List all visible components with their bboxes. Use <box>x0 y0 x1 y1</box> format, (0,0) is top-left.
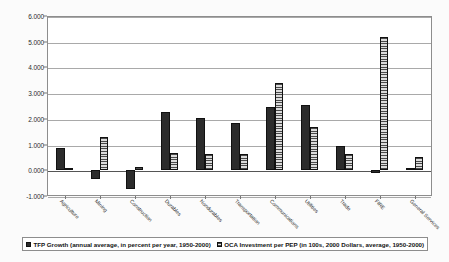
y-axis-tick-mark <box>43 118 47 119</box>
gridline <box>48 43 431 44</box>
x-axis-label-utilities: Utilities <box>303 198 319 214</box>
y-axis-tick-label: 0.000 <box>4 167 44 174</box>
x-axis-tick-mark <box>380 196 381 199</box>
zero-axis-line <box>48 171 431 172</box>
x-axis-tick-mark <box>275 196 276 199</box>
y-axis-tick-mark <box>43 93 47 94</box>
x-axis-label-general-services: General Services <box>408 198 440 230</box>
x-axis-label-mining: Mining <box>93 198 108 213</box>
x-axis-tick-mark <box>100 196 101 199</box>
x-axis-label-communications: Communications <box>268 198 300 230</box>
plot-area <box>47 16 432 196</box>
x-axis-tick-mark <box>135 196 136 199</box>
chart-legend: TFP Growth (annual average, in percent p… <box>22 237 428 251</box>
x-axis-label-transportation: Transportation <box>233 198 261 226</box>
y-axis-tick-mark <box>43 196 47 197</box>
x-axis-tick-mark <box>65 196 66 199</box>
legend-swatch-oca <box>217 242 222 247</box>
x-axis-tick-mark <box>310 196 311 199</box>
y-axis-tick-label: 5.000 <box>4 38 44 45</box>
legend-label: TFP Growth (annual average, in percent p… <box>33 241 210 248</box>
x-axis-tick-mark <box>415 196 416 199</box>
y-axis-tick-label: 4.000 <box>4 64 44 71</box>
gridline <box>48 94 431 95</box>
gridline <box>48 68 431 69</box>
x-axis: AgricultureMiningConstructionDurablesNon… <box>47 198 432 238</box>
x-axis-label-agriculture: Agriculture <box>58 198 80 220</box>
gridline <box>48 120 431 121</box>
x-axis-label-durables: Durables <box>163 198 182 217</box>
gridline <box>48 146 431 147</box>
y-axis-tick-mark <box>43 67 47 68</box>
x-axis-label-nondurables: Nondurables <box>198 198 223 223</box>
legend-label: OCA Investment per PEP (in 100s, 2000 Do… <box>224 241 424 248</box>
x-axis-tick-mark <box>170 196 171 199</box>
x-axis-label-trade: Trade <box>338 198 352 212</box>
y-axis-tick-label: -1.000 <box>4 193 44 200</box>
y-axis-tick-mark <box>43 170 47 171</box>
y-axis-tick-mark <box>43 16 47 17</box>
legend-item: OCA Investment per PEP (in 100s, 2000 Do… <box>217 241 424 248</box>
y-axis-tick-label: 1.000 <box>4 141 44 148</box>
y-axis-tick-label: 3.000 <box>4 90 44 97</box>
y-axis-tick-mark <box>43 41 47 42</box>
y-axis-tick-label: 6.000 <box>4 13 44 20</box>
legend-item: TFP Growth (annual average, in percent p… <box>26 241 211 248</box>
x-axis-label-construction: Construction <box>128 198 153 223</box>
y-axis-tick-label: 2.000 <box>4 115 44 122</box>
x-axis-tick-mark <box>205 196 206 199</box>
gridline <box>48 17 431 18</box>
x-axis-label-fire: FIRE <box>373 198 386 211</box>
x-axis-tick-mark <box>345 196 346 199</box>
chart-container: 6.0005.0004.0003.0002.0001.0000.000-1.00… <box>0 0 449 262</box>
y-axis-tick-mark <box>43 144 47 145</box>
legend-swatch-tfp <box>26 242 31 247</box>
x-axis-tick-mark <box>240 196 241 199</box>
